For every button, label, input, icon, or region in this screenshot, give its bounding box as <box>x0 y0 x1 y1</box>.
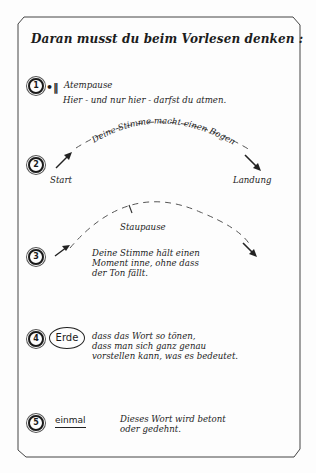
description-1: Hier - und nur hier - darfst du atmen. <box>63 95 226 106</box>
description-4-line-2: dass man sich ganz genau <box>92 341 206 352</box>
label-staupause: Staupause <box>120 222 166 233</box>
number-badge-3: 3 <box>28 249 44 265</box>
start-label: Start <box>50 175 72 186</box>
example-word-underlined: einmal <box>55 415 86 428</box>
description-4-line-1: dass das Wort so tönen, <box>92 331 196 342</box>
description-3-line-1: Deine Stimme hält einen <box>92 248 200 259</box>
landing-label: Landung <box>233 175 271 186</box>
number-badge-2: 2 <box>28 157 44 173</box>
number-badge-5: 5 <box>28 415 44 431</box>
arc-text: Deine Stimme macht einen Bogen <box>89 115 237 146</box>
page-title: Daran musst du beim Vorlesen denken : <box>31 32 303 46</box>
description-4-line-3: vorstellen kann, was es bedeutet. <box>92 351 238 362</box>
description-3-line-3: der Ton fällt. <box>92 268 148 279</box>
svg-text:Deine Stimme macht einen Bogen: Deine Stimme macht einen Bogen <box>89 115 237 146</box>
description-5-line-1: Dieses Wort wird betont <box>120 414 226 425</box>
description-5-line-2: oder gedehnt. <box>120 424 181 435</box>
number-badge-4: 4 <box>28 331 44 347</box>
chamfered-frame: Deine Stimme macht einen Bogen <box>0 0 316 473</box>
description-3-line-2: Moment inne, ohne dass <box>92 258 199 269</box>
label-atempause: Atempause <box>64 80 112 91</box>
breath-pause-symbol: •‖ <box>46 81 59 94</box>
number-badge-1: 1 <box>28 78 44 94</box>
example-word-circled: Erde <box>49 327 85 349</box>
